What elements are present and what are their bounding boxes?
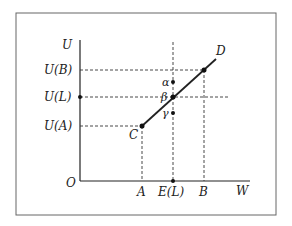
tick-el: E(L) (157, 185, 184, 199)
tick-ul: U(L) (44, 90, 72, 104)
label-gamma: γ (162, 107, 169, 120)
point-beta (171, 95, 176, 100)
label-alpha: α (162, 76, 170, 89)
origin-label: O (66, 176, 76, 190)
tick-a: A (136, 185, 146, 199)
point-d (202, 68, 207, 73)
utility-diagram: U W O U(B) U(L) U(A) A E(L) B C D α β γ (0, 0, 292, 226)
point-el-axis (171, 179, 175, 183)
tick-b: B (198, 185, 208, 199)
label-c: C (129, 128, 138, 142)
label-beta: β (160, 91, 167, 104)
point-gamma (171, 111, 175, 115)
label-d: D (215, 44, 226, 58)
y-axis-label: U (62, 38, 73, 52)
tick-ua: U(A) (44, 119, 72, 133)
point-ul-axis (78, 95, 82, 99)
point-alpha (171, 80, 175, 84)
tick-ub: U(B) (44, 63, 73, 77)
point-c (140, 124, 145, 129)
x-axis-label: W (236, 184, 250, 198)
